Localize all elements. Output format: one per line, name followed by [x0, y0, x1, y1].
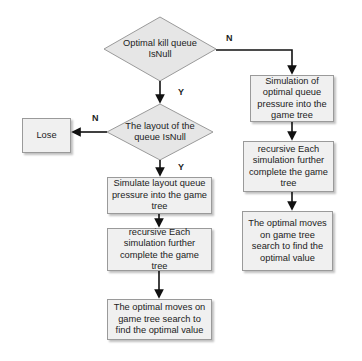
node-lose: Lose — [22, 118, 71, 153]
node-right-optimal: The optimal moves on game tree search to… — [242, 211, 333, 271]
label-layout-no: N — [92, 113, 99, 123]
node-left-simulate: Simulate layout queue pressure into the … — [107, 177, 212, 214]
node-right-recursive: recursive Each simulation further comple… — [243, 141, 334, 192]
node-left-optimal: The optimal moves on game tree search to… — [107, 299, 212, 340]
decision-layout-queue-text: The layout of the queue IsNull — [118, 118, 202, 146]
label-kill-no: N — [226, 33, 233, 43]
node-left-recursive: recursive Each simulation further comple… — [107, 228, 212, 271]
decision-kill-queue-text: Optimal kill queue IsNull — [118, 34, 202, 64]
node-right-simulate: Simulation of optimal queue pressure int… — [250, 75, 334, 122]
label-kill-yes: Y — [178, 87, 184, 97]
label-layout-yes: Y — [178, 162, 184, 172]
arrow-kill-no — [216, 50, 292, 70]
